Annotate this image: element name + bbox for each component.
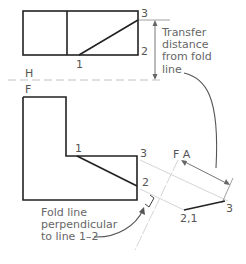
fold-label-fa: F A bbox=[173, 148, 191, 161]
fold-note-text: Fold line perpendicular to line 1–2 bbox=[41, 206, 121, 243]
front-label-2: 2 bbox=[142, 176, 149, 189]
top-label-2: 2 bbox=[141, 45, 148, 58]
fold-note: Fold line perpendicular to line 1–2 bbox=[41, 206, 145, 243]
aux-label-3: 3 bbox=[226, 202, 233, 215]
fold-label-f: F bbox=[25, 83, 31, 96]
top-label-1: 1 bbox=[76, 58, 83, 71]
arrowhead-down-icon bbox=[153, 74, 158, 80]
arrowhead-right-icon bbox=[224, 179, 230, 185]
top-label-3: 3 bbox=[141, 7, 148, 20]
perpendicular-mark-icon bbox=[145, 195, 154, 207]
front-label-3: 3 bbox=[140, 147, 147, 160]
hf-fold-line: H F bbox=[8, 67, 160, 96]
front-view-line-1-2 bbox=[77, 156, 137, 186]
arrowhead-up-icon bbox=[153, 20, 158, 26]
aux-line bbox=[184, 201, 225, 210]
fold-label-h: H bbox=[25, 67, 33, 80]
top-view-line-1-3 bbox=[79, 20, 138, 55]
aux-label-2-1: 2,1 bbox=[180, 212, 198, 225]
diagram-canvas: 3 2 1 Transfer distance from fold line H… bbox=[0, 0, 246, 264]
arrowhead-icon bbox=[139, 207, 145, 215]
fa-fold-line: F A bbox=[135, 148, 191, 250]
front-view: 1 3 2 bbox=[23, 97, 149, 200]
aux-dimension bbox=[181, 160, 233, 203]
top-view: 3 2 1 bbox=[23, 7, 148, 71]
top-view-outline bbox=[23, 11, 138, 55]
arrowhead-left-icon bbox=[181, 160, 187, 166]
transfer-note: Transfer distance from fold line bbox=[161, 26, 215, 76]
transfer-dimension: Transfer distance from fold line bbox=[139, 20, 217, 168]
auxiliary-view: 3 2,1 bbox=[180, 201, 233, 225]
front-label-1: 1 bbox=[75, 142, 82, 155]
